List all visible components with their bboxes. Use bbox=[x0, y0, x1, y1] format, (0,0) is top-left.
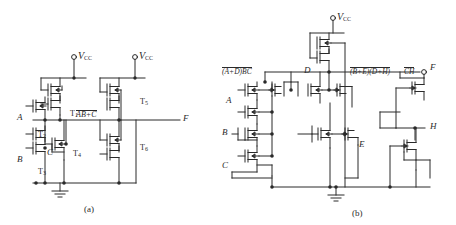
panel-a-circuit bbox=[26, 55, 180, 197]
output-label-h-panel-b: H bbox=[430, 122, 437, 131]
transistor-label-t6: T6 bbox=[140, 144, 148, 152]
input-label-d-panel-b: D bbox=[304, 66, 311, 75]
supply-terminal-top bbox=[331, 16, 336, 21]
input-label-b-panel-b: B bbox=[222, 128, 228, 137]
circuit-figure bbox=[0, 0, 456, 225]
supply-terminal-left bbox=[72, 55, 77, 60]
input-label-e-panel-b: E bbox=[359, 140, 365, 149]
input-label-c-panel-a: C bbox=[47, 148, 53, 157]
input-label-b-panel-a: B bbox=[17, 155, 23, 164]
expr-label-left-b: (A+D)BC bbox=[222, 67, 252, 76]
supply-label-top-b: VCC bbox=[337, 12, 351, 22]
transistor-label-t3: T3 bbox=[38, 168, 46, 176]
transistor-label-t5: T5 bbox=[140, 98, 148, 106]
panel-b-circuit bbox=[232, 16, 430, 201]
input-label-c-panel-b: C bbox=[222, 161, 228, 170]
supply-label-left: VCC bbox=[78, 51, 92, 61]
node-dot bbox=[58, 118, 62, 122]
output-label-f-panel-b: F bbox=[430, 63, 436, 72]
input-label-a-panel-a: A bbox=[17, 113, 23, 122]
output-f-terminal bbox=[422, 70, 427, 75]
expr-label-right-b: CH bbox=[404, 67, 414, 76]
transistor-label-t2: T2 bbox=[38, 131, 46, 139]
input-label-a-panel-b: A bbox=[226, 96, 232, 105]
expr-label-middle-b: (B+E)(D+H) bbox=[350, 67, 390, 76]
output-label-f-panel-a: F bbox=[183, 114, 189, 123]
caption-a: (a) bbox=[84, 205, 94, 214]
caption-b: (b) bbox=[352, 209, 363, 218]
supply-label-right: VCC bbox=[139, 51, 153, 61]
supply-terminal-right bbox=[133, 55, 138, 60]
transistor-label-t4: T4 bbox=[73, 150, 81, 158]
node-label-ab-plus-c: AB+C bbox=[76, 110, 97, 119]
